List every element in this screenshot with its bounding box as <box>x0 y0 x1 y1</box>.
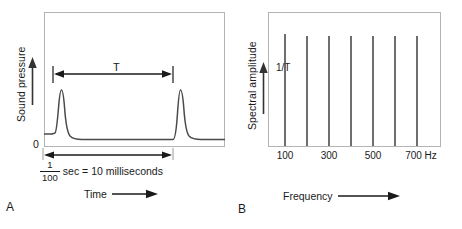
y-axis-arrow-icon-a <box>27 57 38 105</box>
x-axis-title-b: Frequency <box>283 190 400 202</box>
y-axis-zero-label: 0 <box>33 138 39 150</box>
x-tick-label-300: 300 <box>321 150 338 161</box>
panel-letter-b: B <box>238 202 246 216</box>
panel-letter-a: A <box>6 200 14 214</box>
x-tick-label-700: 700 Hz <box>405 150 437 161</box>
period-label: T <box>109 61 124 73</box>
x-axis-arrow-icon-b <box>338 191 400 201</box>
fraction-numerator: 1 <box>45 160 54 170</box>
x-tick-label-100: 100 <box>277 150 294 161</box>
duration-caption: 1 100 sec = 10 milliseconds <box>40 160 163 182</box>
fraction-one-hundredth: 1 100 <box>40 160 60 182</box>
y-axis-label-b: Spectral amplitude <box>246 41 258 130</box>
x-axis-title-a: Time <box>84 188 158 200</box>
duration-caption-text: sec = 10 milliseconds <box>63 165 163 177</box>
figure-container: Sound pressure 0 T 1 <box>0 0 462 229</box>
x-axis-label-b: Frequency <box>283 190 333 202</box>
panel-a: Sound pressure 0 T 1 <box>0 0 231 229</box>
fraction-denominator: 100 <box>40 173 60 183</box>
x-tick-label-500: 500 <box>365 150 382 161</box>
x-axis-label-a: Time <box>84 188 107 200</box>
panel-b: Spectral amplitude 1/T 100 300 500 700 H… <box>231 0 462 229</box>
spectrum-lines <box>268 12 441 147</box>
x-axis-arrow-icon-a <box>112 189 158 199</box>
y-axis-label-a: Sound pressure <box>15 46 27 122</box>
